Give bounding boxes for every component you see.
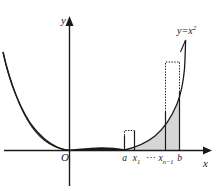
tick-label-ellipsis-lead: ⋯ [146, 153, 157, 163]
curve-equation-exponent: 2 [193, 24, 197, 32]
tick-label-x1: x1 [133, 154, 140, 165]
shaded-area-under-curve [125, 92, 180, 150]
curve-equation-label: y=x2 [177, 25, 196, 36]
riemann-sum-figure: y x O y=x2 a x1 ⋯ xn−1 b [0, 0, 219, 191]
tick-label-xn-1: xn−1 [158, 154, 173, 165]
y-axis-arrowhead [66, 16, 74, 26]
parabola-curve [3, 52, 125, 150]
dotted-rectangle-first-subinterval [125, 131, 135, 136]
x-axis-tick-label-row: a x1 ⋯ xn−1 b [0, 154, 219, 168]
y-axis-label: y [61, 15, 66, 26]
tick-label-ellipsis: ⋯ [146, 154, 157, 164]
tick-label-a-lead: a [122, 153, 127, 163]
tick-label-a: a [122, 154, 127, 165]
tick-label-xn-1-sub: n−1 [163, 158, 174, 165]
tick-label-x1-sub: 1 [137, 158, 140, 165]
parabola-left-branch [3, 52, 70, 150]
tick-label-b: b [177, 154, 182, 165]
tick-label-b-lead: b [177, 153, 182, 163]
curve-equation-lead: y=x [177, 25, 193, 36]
